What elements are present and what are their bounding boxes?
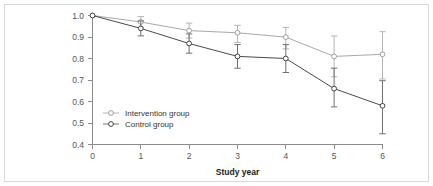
survival-curve-chart: 1.0 0.9 0.8 0.7 0.6 0.5 0.4 0 1 2 3 4 5 … bbox=[5, 5, 430, 183]
legend-label-intervention: Intervention group bbox=[125, 109, 190, 118]
chart-legend: Intervention group Control group bbox=[103, 109, 190, 129]
x-axis-ticks: 0 1 2 3 4 5 6 bbox=[90, 145, 385, 162]
data-point bbox=[187, 41, 192, 46]
figure-frame: 1.0 0.9 0.8 0.7 0.6 0.5 0.4 0 1 2 3 4 5 … bbox=[4, 4, 429, 182]
data-point bbox=[235, 30, 240, 35]
x-tick-label: 2 bbox=[187, 151, 192, 161]
y-tick-label: 0.5 bbox=[72, 118, 84, 128]
data-point bbox=[90, 13, 95, 18]
x-tick-label: 0 bbox=[90, 151, 95, 161]
x-tick-label: 1 bbox=[138, 151, 143, 161]
x-axis-title: Study year bbox=[216, 167, 260, 177]
y-tick-label: 0.8 bbox=[72, 54, 84, 64]
y-tick-label: 0.9 bbox=[72, 32, 84, 42]
legend-item-control-group[interactable]: Control group bbox=[103, 120, 174, 129]
legend-marker-icon bbox=[109, 122, 114, 127]
x-tick-label: 3 bbox=[235, 151, 240, 161]
x-tick-label: 4 bbox=[283, 151, 288, 161]
y-tick-label: 0.6 bbox=[72, 97, 84, 107]
error-bars-intervention bbox=[138, 17, 386, 79]
data-point bbox=[283, 56, 288, 61]
data-point bbox=[235, 54, 240, 59]
data-point bbox=[138, 26, 143, 31]
x-tick-label: 5 bbox=[332, 151, 337, 161]
y-axis-ticks: 1.0 0.9 0.8 0.7 0.6 0.5 0.4 bbox=[72, 11, 92, 150]
y-tick-label: 1.0 bbox=[72, 11, 84, 21]
data-point bbox=[283, 35, 288, 40]
y-tick-label: 0.4 bbox=[72, 140, 84, 150]
data-point bbox=[332, 86, 337, 91]
data-point bbox=[332, 54, 337, 59]
legend-label-control: Control group bbox=[125, 120, 174, 129]
data-point bbox=[187, 28, 192, 33]
legend-item-intervention-group[interactable]: Intervention group bbox=[103, 109, 190, 118]
legend-marker-icon bbox=[109, 111, 114, 116]
data-point bbox=[380, 103, 385, 108]
x-tick-label: 6 bbox=[380, 151, 385, 161]
y-tick-label: 0.7 bbox=[72, 75, 84, 85]
data-point bbox=[380, 52, 385, 57]
